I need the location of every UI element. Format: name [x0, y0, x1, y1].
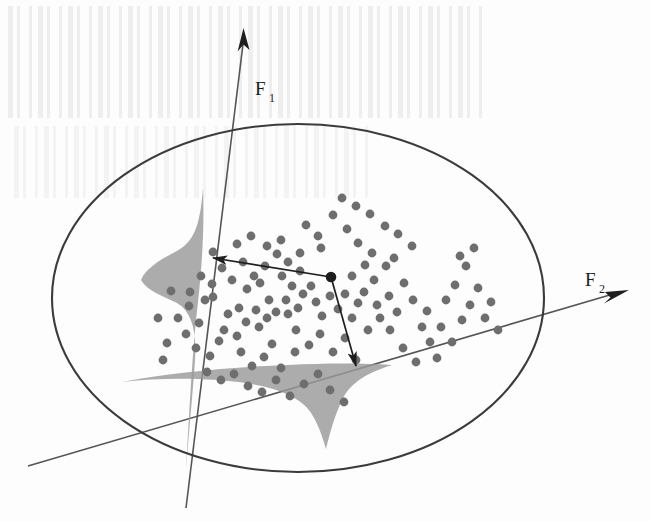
- scatter-point: [433, 354, 442, 363]
- scatter-figure: F 1 F 2: [0, 0, 650, 521]
- scatter-point: [209, 293, 218, 302]
- scatter-point: [296, 249, 305, 258]
- scatter-point: [159, 356, 168, 365]
- scatter-point: [258, 388, 267, 397]
- scatter-point: [250, 272, 259, 281]
- scatter-point: [368, 249, 377, 258]
- scatter-point: [341, 290, 350, 299]
- scatter-point: [224, 310, 233, 319]
- scatter-point: [442, 296, 451, 305]
- scatter-point: [474, 284, 483, 293]
- scatter-point: [381, 222, 390, 231]
- scatter-point: [361, 261, 370, 270]
- scatter-point: [282, 296, 291, 305]
- scatter-point: [462, 262, 471, 271]
- scatter-point: [163, 339, 172, 348]
- f1-axis-arrowhead-icon: [238, 28, 250, 52]
- scatter-point: [408, 242, 417, 251]
- scatter-point: [364, 326, 373, 335]
- scatter-point: [409, 296, 418, 305]
- scatter-point: [217, 376, 226, 385]
- scatter-point: [399, 344, 408, 353]
- scatter-point: [277, 364, 286, 373]
- scatter-point: [208, 280, 217, 289]
- scatter-point: [197, 272, 206, 281]
- scatter-point: [272, 376, 281, 385]
- scatter-point: [255, 323, 264, 332]
- scatter-point: [456, 252, 465, 261]
- scatter-point: [412, 358, 421, 367]
- f2-axis-arrowhead-icon: [604, 290, 629, 304]
- scatter-point: [366, 210, 375, 219]
- scatter-point: [376, 314, 385, 323]
- scatter-point: [494, 326, 503, 335]
- scatter-point: [286, 392, 295, 401]
- scatter-point: [278, 272, 287, 281]
- scatter-point: [312, 298, 321, 307]
- density-curve-f1: [141, 188, 203, 470]
- scatter-point: [386, 326, 395, 335]
- scatter-point: [203, 368, 212, 377]
- f2-axis-label-text: F: [585, 269, 596, 290]
- projection-to-f1-arrow: [213, 258, 331, 277]
- f2-axis-label: F 2: [585, 269, 605, 296]
- scatter-point: [154, 314, 163, 323]
- scatter-point: [201, 296, 210, 305]
- scatter-point: [354, 239, 363, 248]
- scatter-point: [348, 272, 357, 281]
- scatter-point: [185, 302, 194, 311]
- f1-axis-label-text: F: [255, 78, 266, 99]
- scatter-point: [268, 340, 277, 349]
- scatter-point: [192, 344, 201, 353]
- scatter-point: [329, 348, 338, 357]
- scatter-point: [260, 353, 269, 362]
- scatter-point: [186, 288, 195, 297]
- scatter-point: [393, 308, 402, 317]
- scatter-point: [418, 323, 427, 332]
- scatter-point: [426, 338, 435, 347]
- scatter-point: [288, 282, 297, 291]
- scatter-point: [235, 304, 244, 313]
- scatter-point: [373, 301, 382, 310]
- scatter-point: [263, 314, 272, 323]
- scatter-point: [256, 279, 265, 288]
- scatter-point: [458, 316, 467, 325]
- scatter-point: [195, 319, 204, 328]
- scatter-point: [300, 380, 309, 389]
- scatter-point: [385, 292, 394, 301]
- scatter-point: [242, 318, 251, 327]
- scatter-point: [314, 370, 323, 379]
- scatter-point: [248, 362, 257, 371]
- scatter-point: [247, 232, 256, 241]
- scatter-point: [292, 326, 301, 335]
- scatter-point: [284, 310, 293, 319]
- highlighted-data-point: [326, 272, 337, 283]
- scatter-point: [284, 258, 293, 267]
- scatter-point: [470, 244, 479, 253]
- scatter-point: [233, 332, 242, 341]
- scatter-point: [237, 348, 246, 357]
- confidence-ellipse: [52, 124, 544, 472]
- scatter-point: [291, 348, 300, 357]
- scatter-point: [299, 290, 308, 299]
- scatter-point: [448, 338, 457, 347]
- density-curve-f2: [122, 364, 392, 450]
- scatter-point: [182, 330, 191, 339]
- scatter-point: [487, 298, 496, 307]
- scatter-point: [244, 382, 253, 391]
- scatter-point: [206, 352, 215, 361]
- scatter-point: [394, 230, 403, 239]
- scatter-point: [481, 314, 490, 323]
- scatter-point: [220, 326, 229, 335]
- scatter-point: [263, 242, 272, 251]
- scatter-point: [228, 276, 237, 285]
- scatter-point: [305, 341, 314, 350]
- scatter-point: [314, 232, 323, 241]
- scatter-point: [317, 244, 326, 253]
- scatter-point: [167, 287, 176, 296]
- scatter-point: [329, 211, 338, 220]
- scatter-point: [326, 292, 335, 301]
- scatter-point: [252, 306, 261, 315]
- scatter-point: [215, 337, 224, 346]
- scatter-point: [338, 194, 347, 203]
